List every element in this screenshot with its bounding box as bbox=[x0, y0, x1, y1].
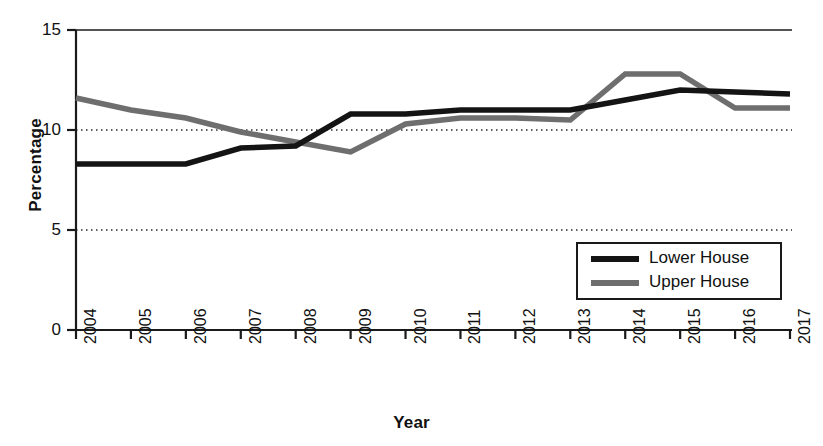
x-tick-label: 2017 bbox=[797, 308, 813, 344]
x-tick-label: 2005 bbox=[138, 308, 154, 344]
y-tick-label: 15 bbox=[15, 21, 61, 39]
x-tick-label: 2013 bbox=[577, 308, 593, 344]
y-tick-label: 10 bbox=[15, 121, 61, 139]
x-axis-title: Year bbox=[0, 413, 823, 433]
chart-container: Percentage Year 051015 20042005200620072… bbox=[0, 0, 823, 446]
y-tick-label: 5 bbox=[15, 221, 61, 239]
x-tick-label: 2009 bbox=[358, 308, 374, 344]
y-axis-title: Percentage bbox=[24, 15, 48, 315]
x-tick-label: 2012 bbox=[522, 308, 538, 344]
line-chart-plot bbox=[0, 0, 823, 446]
x-tick-label: 2016 bbox=[742, 308, 758, 344]
x-tick-label: 2006 bbox=[193, 308, 209, 344]
x-tick-label: 2004 bbox=[83, 308, 99, 344]
data-series bbox=[76, 74, 790, 164]
x-tick-label: 2010 bbox=[413, 308, 429, 344]
x-tick-label: 2007 bbox=[248, 308, 264, 344]
x-tick-label: 2011 bbox=[467, 310, 483, 344]
gridlines bbox=[76, 130, 792, 230]
legend-item-label: Lower House bbox=[649, 249, 749, 267]
legend-item-label: Upper House bbox=[649, 273, 749, 291]
x-tick-label: 2015 bbox=[687, 308, 703, 344]
x-tick-label: 2008 bbox=[303, 308, 319, 344]
y-tick-label: 0 bbox=[15, 321, 61, 339]
x-tick-label: 2014 bbox=[632, 308, 648, 344]
